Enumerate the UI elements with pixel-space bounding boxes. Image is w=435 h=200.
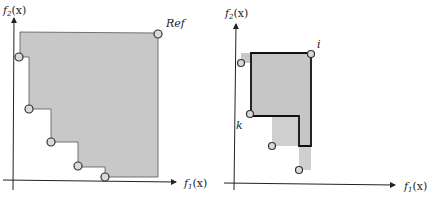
pareto-point: [25, 105, 33, 113]
ref-label: Ref: [165, 17, 187, 30]
dominated-region: [20, 32, 158, 177]
right-diagram: i k f2(x) f1(x): [224, 7, 427, 194]
pareto-point: [269, 143, 276, 150]
pareto-point: [47, 138, 55, 146]
hypervolume-diagrams: Ref f2(x) f1(x) i k f2(x) f1(x): [0, 0, 435, 200]
y-axis: [13, 18, 14, 190]
pareto-point: [296, 167, 303, 174]
y-axis-label: f2(x): [2, 4, 26, 18]
pareto-point: [15, 53, 23, 61]
reference-point: [154, 30, 162, 38]
k-label: k: [236, 119, 243, 132]
pareto-point: [101, 173, 109, 181]
x-axis-label: f1(x): [403, 180, 427, 194]
i-label: i: [317, 38, 321, 51]
point-i: [308, 51, 315, 58]
pareto-point: [238, 60, 245, 67]
x-axis: [224, 183, 395, 185]
pareto-point-k: [247, 111, 254, 118]
y-axis-label: f2(x): [224, 7, 248, 21]
shaded-step: [272, 116, 299, 146]
left-diagram: Ref f2(x) f1(x): [2, 4, 207, 191]
x-axis-label: f1(x): [183, 177, 207, 191]
y-axis: [234, 24, 236, 190]
x-axis: [3, 180, 176, 182]
pareto-point: [74, 162, 82, 170]
